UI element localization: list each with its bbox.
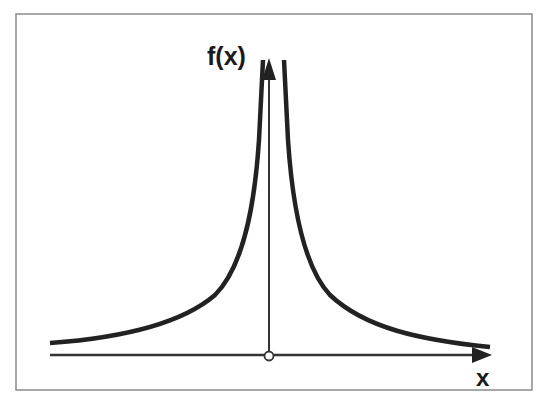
y-axis bbox=[262, 58, 276, 357]
x-axis-arrow-icon bbox=[472, 347, 492, 363]
curve-left-branch bbox=[50, 60, 263, 343]
graph-canvas bbox=[0, 0, 538, 407]
open-point-origin bbox=[265, 352, 274, 361]
y-axis-label: f(x) bbox=[207, 42, 246, 71]
frame-border bbox=[16, 14, 532, 390]
curve-right-branch bbox=[284, 60, 490, 347]
x-axis-label: x bbox=[476, 364, 489, 392]
